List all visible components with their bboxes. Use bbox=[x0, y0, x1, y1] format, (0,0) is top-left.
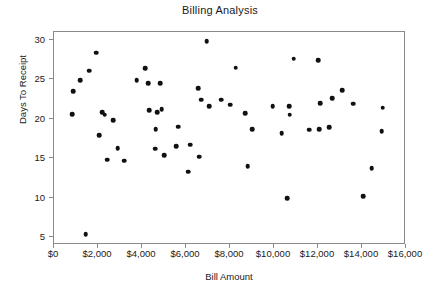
x-tick-mark bbox=[97, 244, 98, 248]
data-point bbox=[285, 196, 290, 201]
data-point bbox=[381, 105, 386, 110]
data-point bbox=[143, 66, 148, 71]
x-tick-mark bbox=[273, 244, 274, 248]
data-point bbox=[243, 111, 248, 116]
data-point bbox=[288, 113, 293, 118]
x-tick-label: $16,000 bbox=[370, 248, 440, 259]
data-point bbox=[205, 39, 210, 44]
data-point bbox=[186, 169, 191, 174]
y-tick-label: 15 bbox=[0, 152, 45, 163]
plot-area bbox=[53, 31, 405, 244]
data-point bbox=[158, 81, 163, 86]
x-axis-label: Bill Amount bbox=[53, 271, 405, 282]
data-point bbox=[153, 146, 158, 151]
data-point bbox=[155, 110, 160, 115]
data-point bbox=[111, 118, 116, 123]
data-point bbox=[228, 102, 233, 107]
data-point bbox=[233, 65, 238, 70]
x-tick-mark bbox=[405, 244, 406, 248]
y-axis-label: Days To Receipt bbox=[17, 30, 28, 150]
y-tick-mark bbox=[49, 39, 53, 40]
data-point bbox=[87, 68, 92, 73]
data-point bbox=[307, 128, 312, 133]
y-tick-label: 5 bbox=[0, 231, 45, 242]
data-point bbox=[316, 58, 321, 63]
data-point bbox=[361, 194, 366, 199]
y-tick-mark bbox=[49, 157, 53, 158]
data-point bbox=[330, 96, 335, 101]
data-point bbox=[380, 129, 385, 134]
data-point bbox=[146, 81, 151, 86]
data-point bbox=[351, 101, 356, 106]
data-point bbox=[370, 166, 375, 171]
data-point bbox=[134, 78, 139, 83]
data-point bbox=[292, 57, 297, 62]
data-point bbox=[174, 144, 179, 149]
data-point bbox=[207, 104, 212, 109]
data-point bbox=[287, 104, 292, 109]
data-point bbox=[176, 124, 181, 129]
data-point bbox=[84, 232, 89, 237]
x-tick-mark bbox=[361, 244, 362, 248]
data-point bbox=[199, 98, 204, 103]
data-point bbox=[116, 146, 121, 151]
y-tick-label: 25 bbox=[0, 73, 45, 84]
data-point bbox=[327, 125, 332, 130]
data-point bbox=[162, 153, 167, 158]
x-tick-mark bbox=[185, 244, 186, 248]
scatter-chart: Billing Analysis Days To Receipt Bill Am… bbox=[0, 0, 440, 294]
x-tick-mark bbox=[53, 244, 54, 248]
data-point bbox=[147, 108, 152, 113]
data-point bbox=[153, 127, 158, 132]
y-tick-label: 30 bbox=[0, 33, 45, 44]
data-point bbox=[340, 88, 345, 93]
data-point bbox=[219, 98, 224, 103]
data-point bbox=[78, 78, 83, 83]
data-point bbox=[271, 104, 276, 109]
x-tick-mark bbox=[141, 244, 142, 248]
chart-title: Billing Analysis bbox=[0, 4, 440, 16]
data-point bbox=[122, 158, 127, 163]
data-point bbox=[317, 127, 322, 132]
data-point bbox=[279, 131, 284, 136]
y-tick-mark bbox=[49, 118, 53, 119]
data-point bbox=[70, 112, 75, 117]
data-point bbox=[160, 107, 165, 112]
data-point bbox=[105, 158, 110, 163]
x-tick-mark bbox=[229, 244, 230, 248]
y-tick-label: 20 bbox=[0, 112, 45, 123]
x-tick-mark bbox=[317, 244, 318, 248]
data-point bbox=[245, 164, 250, 169]
y-tick-mark bbox=[49, 197, 53, 198]
data-point bbox=[197, 154, 202, 159]
data-point bbox=[94, 50, 99, 55]
data-point bbox=[102, 113, 107, 118]
data-point bbox=[196, 86, 201, 91]
y-tick-label: 10 bbox=[0, 191, 45, 202]
data-point bbox=[188, 143, 193, 148]
data-point bbox=[97, 133, 102, 138]
y-tick-mark bbox=[49, 236, 53, 237]
data-point bbox=[318, 101, 323, 106]
data-point bbox=[71, 89, 76, 94]
y-tick-mark bbox=[49, 78, 53, 79]
data-point bbox=[250, 127, 255, 132]
